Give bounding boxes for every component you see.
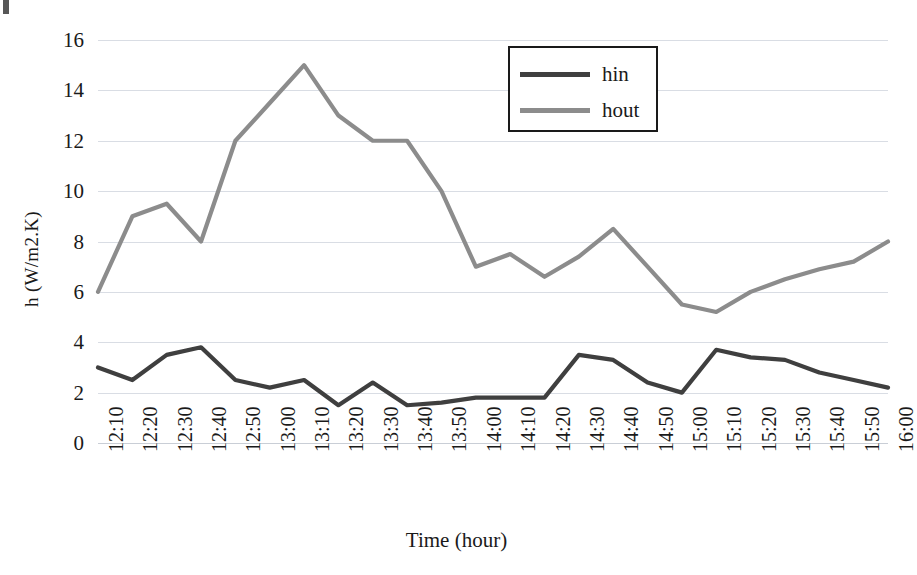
x-tick-label: 13:10 xyxy=(312,406,332,452)
x-tick-label: 13:20 xyxy=(346,406,366,452)
x-tick-label: 14:10 xyxy=(518,406,538,452)
x-tick-label: 12:40 xyxy=(209,406,229,452)
legend-item-hout: hout xyxy=(520,98,639,122)
x-axis-title: Time (hour) xyxy=(0,528,913,553)
x-tick-label: 15:10 xyxy=(724,406,744,452)
y-axis-title: h (W/m2.K) xyxy=(21,179,43,339)
series-line-hout xyxy=(98,65,888,312)
x-tick-label: 12:20 xyxy=(140,406,160,452)
x-tick-label: 14:30 xyxy=(587,406,607,452)
y-tick-label: 4 xyxy=(38,332,84,353)
legend-item-hin: hin xyxy=(520,62,629,86)
y-tick-label: 10 xyxy=(38,181,84,202)
x-tick-label: 14:20 xyxy=(553,406,573,452)
x-tick-label: 15:20 xyxy=(759,406,779,452)
y-tick-label: 8 xyxy=(38,231,84,252)
x-tick-label: 12:30 xyxy=(175,406,195,452)
x-tick-label: 12:50 xyxy=(243,406,263,452)
series-lines xyxy=(98,40,888,443)
x-tick-label: 13:40 xyxy=(415,406,435,452)
y-tick-label: 14 xyxy=(38,80,84,101)
x-tick-label: 13:30 xyxy=(381,406,401,452)
y-tick-label: 0 xyxy=(38,433,84,454)
x-tick-label: 13:00 xyxy=(278,406,298,452)
x-tick-label: 14:00 xyxy=(484,406,504,452)
legend-label: hin xyxy=(602,64,629,85)
y-tick-label: 16 xyxy=(38,30,84,51)
legend-swatch-hout xyxy=(520,108,590,113)
x-tick-label: 15:40 xyxy=(827,406,847,452)
chart-legend: hinhout xyxy=(508,46,658,132)
x-tick-label: 14:40 xyxy=(621,406,641,452)
crop-artifact xyxy=(3,0,9,14)
x-tick-label: 12:10 xyxy=(106,406,126,452)
x-tick-label: 15:50 xyxy=(862,406,882,452)
x-tick-label: 16:00 xyxy=(896,406,916,452)
plot-area xyxy=(98,40,888,443)
y-tick-label: 6 xyxy=(38,281,84,302)
legend-label: hout xyxy=(602,100,639,121)
legend-swatch-hin xyxy=(520,72,590,77)
x-tick-label: 15:00 xyxy=(690,406,710,452)
y-tick-label: 12 xyxy=(38,130,84,151)
y-tick-label: 2 xyxy=(38,382,84,403)
series-line-hin xyxy=(98,347,888,405)
x-tick-label: 14:50 xyxy=(656,406,676,452)
x-tick-label: 13:50 xyxy=(449,406,469,452)
x-tick-label: 15:30 xyxy=(793,406,813,452)
